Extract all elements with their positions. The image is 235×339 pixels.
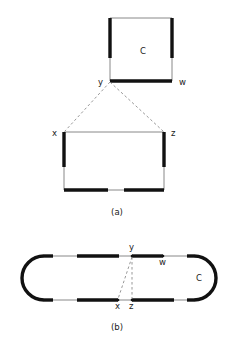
panel-b-chords xyxy=(118,257,132,299)
panel-a-chords xyxy=(65,82,163,131)
vertex-dot-y xyxy=(131,255,134,258)
panel-b: y w x z C (b) xyxy=(22,242,216,332)
vertex-label-y-panel-a: y xyxy=(98,77,103,87)
vertex-label-x-panel-b: x xyxy=(115,301,120,311)
chord-y-x-panel-a xyxy=(65,82,110,131)
vertex-label-z-panel-a: z xyxy=(171,128,176,138)
lower-square xyxy=(64,132,164,190)
upper-square: C xyxy=(110,18,172,81)
vertex-label-x-panel-a: x xyxy=(52,128,57,138)
caption-b: (b) xyxy=(111,322,123,332)
vertex-label-y-panel-b: y xyxy=(129,242,134,252)
chord-y-x-panel-b xyxy=(118,257,132,299)
vertex-label-w-panel-b: w xyxy=(159,257,166,267)
graph-theory-figure: C y w x z (a) xyxy=(0,0,235,339)
caption-a: (a) xyxy=(111,207,123,217)
vertex-label-w-panel-a: w xyxy=(179,77,186,87)
panel-a: C y w x z (a) xyxy=(52,18,186,217)
panel-b-vertex-dots xyxy=(117,255,165,302)
cycle-label-c-panel-b: C xyxy=(196,273,202,283)
vertex-label-z-panel-b: z xyxy=(129,301,134,311)
stadium-outline xyxy=(22,256,216,300)
stadium-left-arc xyxy=(22,256,44,300)
stadium-left-arc-thick xyxy=(22,256,44,300)
cycle-label-c-panel-a: C xyxy=(140,46,146,56)
figure-container: C y w x z (a) xyxy=(0,0,235,339)
chord-y-z-panel-a xyxy=(110,82,163,131)
